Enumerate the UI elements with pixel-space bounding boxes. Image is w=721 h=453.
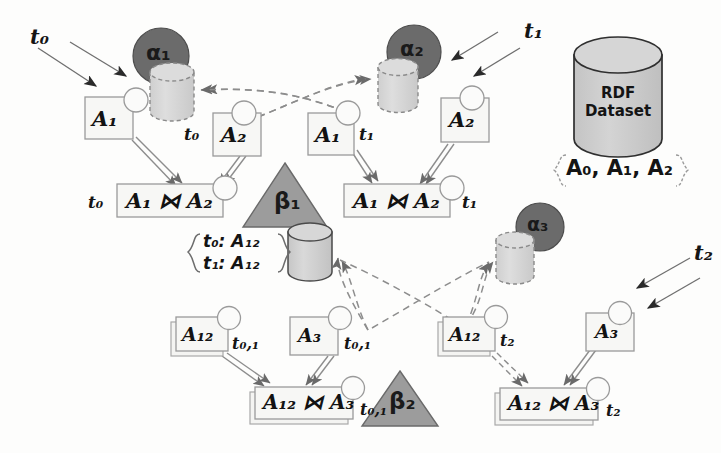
edge-a3-to-join-bot-left [306,356,334,385]
edge-a12-to-join-bot-left [222,353,270,386]
diagram-vector-layer [0,0,721,453]
beta2-label: β₂ [389,388,416,414]
box-label-join-bot-left: A₁₂ ⋈ A₃ [263,390,354,414]
dataset-title-line1: RDF [578,85,658,103]
time-label-a2-mid-top: t₀ [184,124,199,144]
alpha2-label: α₂ [400,37,424,61]
annotation-arrow-t2 [637,258,700,308]
annotation-arrow-t1 [452,32,520,76]
alpha3-cylinder [496,232,534,284]
box-label-a12-left-bot: A₁₂ [182,323,213,345]
alpha2-cylinder [378,59,418,113]
time-label-join-left: t₀ [88,192,103,212]
box-label-join-bot-right: A₁₂ ⋈ A₃ [508,391,599,415]
time-label-a12-right-bot: t₂ [500,331,514,350]
box-label-a2-right-top: A₂ [449,107,475,132]
time-label-a1-mid-top: t₁ [359,124,374,144]
time-label-a3-left-bot: t₀,₁ [344,334,371,353]
annotation-label-t0: t₀ [30,24,49,49]
diagram-canvas: t₀ t₁ t₂ α₁ α₂ α₃ β₁ β₂ RDF Dataset A₀, … [0,0,721,453]
box-label-a1-left-top: A₁ [92,106,118,131]
alpha1-label: α₁ [146,40,171,65]
edge-a1t1-to-join-right [352,150,378,183]
box-label-a12-right-bot: A₁₂ [449,323,480,345]
box-label-join-right: A₁ ⋈ A₂ [353,188,440,213]
box-label-a1-mid-top: A₁ [315,122,341,147]
alpha3-label: α₃ [527,213,548,235]
time-label-join-right: t₁ [462,192,477,212]
dataset-title-line2: Dataset [578,103,658,121]
time-label-join-bot-left: t₀,₁ [360,400,387,419]
edge-a1-to-join-left [132,137,182,186]
box-label-join-left: A₁ ⋈ A₂ [126,188,213,213]
beta1-cylinder [288,223,332,281]
alpha1-cylinder [150,63,194,121]
dataset-contents: A₀, A₁, A₂ [566,156,673,180]
edge-a12t2-to-join-bot-right [492,353,528,386]
box-label-a3-left-bot: A₃ [298,324,321,346]
transfer-arrow-cross-right [340,260,462,326]
box-label-a3-right-bot: A₃ [595,320,618,342]
box-label-a2-mid-top: A₂ [221,122,247,147]
transfer-arrow-a1-to-alpha1 [201,89,356,116]
time-label-join-bot-right: t₂ [606,401,620,420]
set-note-line1: t₀: A₁₂ [203,231,259,251]
annotation-label-t1: t₁ [524,18,543,43]
time-label-a12-left-bot: t₀,₁ [232,334,259,353]
annotation-arrow-t0 [38,42,126,86]
annotation-label-t2: t₂ [694,240,713,265]
beta1-label: β₁ [274,188,301,214]
set-note-line2: t₁: A₁₂ [203,253,259,273]
